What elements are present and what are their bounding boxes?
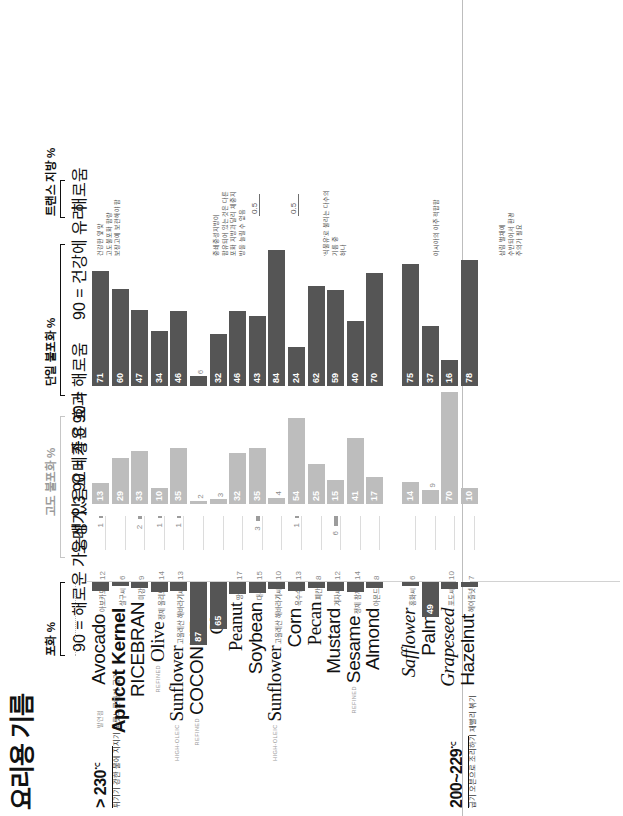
bar-mono-value: 43 [249,373,266,383]
bar-omega6-value: 10 [461,491,478,501]
bar-omega3 [138,516,142,519]
omega3-baseline [281,516,282,550]
bar-mono-value: 24 [288,373,305,383]
bar-mono [461,260,478,386]
bar-saturated [131,582,148,588]
bar-saturated [92,582,109,591]
bar-saturated [308,582,325,588]
bar-mono [327,290,344,386]
oil-prefix: HIGH-OLEIC [174,724,180,761]
omega3-baseline [454,516,455,550]
omega3-baseline [242,516,243,550]
bar-omega3 [334,516,338,526]
bar-omega6-value: 10 [151,491,168,501]
oil-name-ko: 정제 올리브 [156,588,166,620]
bar-saturated [327,582,344,591]
omega3-baseline [379,516,380,550]
bar-omega3 [295,516,299,518]
bar-mono-value: 46 [170,373,187,383]
omega3-baseline [262,516,263,550]
bar-saturated [170,582,187,591]
omega3-baseline [340,516,341,550]
bar-omega3-value: 2 [131,525,148,529]
bar-omega6 [441,392,458,504]
bar-omega6 [210,499,227,504]
bar-saturated [151,582,168,592]
bar-mono [92,271,109,386]
bar-mono-value: 46 [229,373,246,383]
bar-saturated [402,582,419,586]
note-sesame: 아시아의 아주 적합함 [432,106,441,256]
note-corn: '식물유'로 불리는 다수의 기름 중 하나 [322,106,348,256]
bar-mono-value: 71 [92,373,109,383]
oil-name-ko: 미강 [136,588,146,600]
omega3-baseline [223,516,224,550]
oil-name-ko: 아보카도 [97,588,107,612]
bar-mono-value: 47 [131,373,148,383]
bar-mono [308,286,325,386]
bar-omega3-value: 1 [92,523,109,527]
bar-omega6-value: 13 [92,491,109,501]
omega3-baseline [144,516,145,550]
bar-mono-value: 59 [327,373,344,383]
bar-mono-value: 40 [347,373,364,383]
bar-omega3-value: 3 [249,526,266,530]
bar-omega6-value: 29 [112,491,129,501]
bar-omega3 [256,516,260,521]
bar-mono [268,250,285,386]
oil-name-ko: 아몬드 [371,588,381,606]
bar-omega6-value: 41 [347,491,364,501]
bar-mono-value: 34 [151,373,168,383]
oil-name-ko: 고올레산 해바라기씨 [175,588,185,644]
bar-omega3-value: 6 [327,531,344,535]
bar-mono-value: 70 [366,373,383,383]
bar-saturated [268,582,285,589]
bar-mono-value: 84 [268,373,285,383]
table-row: Hazelnut헤이즐넛71078 [457,0,483,816]
bar-saturated-value: 7 [463,576,480,580]
bar-saturated-value: 8 [368,576,385,580]
oil-prefix: HIGH-OLEIC [272,724,278,761]
bar-omega6-value: 14 [402,491,419,501]
oil-name-ko: 고올레산 해바라기씨 [273,588,283,644]
bar-omega6-value: 70 [441,491,458,501]
oil-name-ko: 홍화씨 [407,588,417,606]
note-coconut: 중쇄중성지방이 함유되어 있는 것은 다른 포화 지방과 달리 체중지 방을 늘… [212,96,247,256]
bar-saturated [249,582,266,593]
oil-name-almond: Almond아몬드 [362,588,388,670]
bar-omega6-value: 33 [131,491,148,501]
bar-omega3-value: 1 [170,523,187,527]
bar-omega3 [99,516,103,518]
bar-saturated [288,582,305,591]
bar-rows-container: Avocado아보카도1211371Apricot Kernel살구씨62960… [0,0,623,816]
bar-omega6 [190,501,207,504]
bar-saturated [441,582,458,589]
bar-omega3 [158,516,162,518]
note-avocado: 건강한 옆 맞 고도불포화 함량 보장고에 보관해야 함 [96,106,122,256]
bar-saturated-value: 49 [422,604,439,614]
omega3-baseline [360,516,361,550]
bar-saturated [347,582,364,592]
oil-name-ko: 겨자씨 [332,588,342,606]
bar-mono [190,376,207,386]
omega3-baseline [183,516,184,550]
omega3-baseline [301,516,302,550]
bar-saturated-value: 87 [190,632,207,642]
oil-name-en: Hazelnut [457,614,479,686]
oil-name-ko: 피칸 [313,588,323,600]
oil-prefix: REFINED [155,665,161,692]
bar-mono [366,273,383,386]
oil-prefix: REFINED [351,686,357,713]
bar-mono [112,289,129,386]
bar-mono [402,265,419,387]
omega3-baseline [474,516,475,550]
bar-saturated [366,582,383,588]
oil-name-ko: 살구씨 [117,588,127,606]
bar-omega6-value: 15 [327,491,344,501]
bar-omega3-value: 1 [151,523,168,527]
omega3-baseline [105,516,106,550]
oil-name-ko: 포도씨 [446,588,456,606]
bar-omega6-value: 32 [229,491,246,501]
bar-omega6-value: 17 [366,491,383,501]
bar-saturated [461,582,478,587]
